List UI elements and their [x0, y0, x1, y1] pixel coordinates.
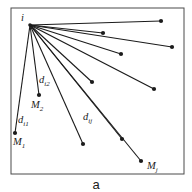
data-point — [90, 80, 94, 84]
origin-label: i — [21, 12, 24, 23]
edge-line — [30, 21, 161, 25]
distance-label: di1 — [18, 114, 29, 128]
data-point — [139, 159, 143, 163]
data-point — [159, 19, 163, 23]
point-label: Mj — [146, 160, 158, 174]
figure: iMjM2M1di1di2dij a — [0, 0, 192, 192]
figure-caption: a — [0, 177, 192, 192]
data-point — [152, 87, 156, 91]
point-label: M1 — [12, 136, 25, 150]
data-point — [37, 93, 41, 97]
data-point — [119, 52, 123, 56]
fan-diagram-svg: iMjM2M1di1di2dij — [0, 0, 192, 192]
data-point — [120, 137, 124, 141]
data-point — [81, 142, 85, 146]
data-point — [13, 131, 17, 135]
origin-point — [28, 23, 32, 27]
distance-label: di2 — [39, 74, 50, 88]
point-label: M2 — [30, 99, 44, 113]
data-point — [101, 31, 105, 35]
edge-line — [30, 25, 141, 161]
edge-line — [30, 25, 121, 54]
distance-label: dij — [83, 111, 92, 125]
data-point — [170, 45, 174, 49]
